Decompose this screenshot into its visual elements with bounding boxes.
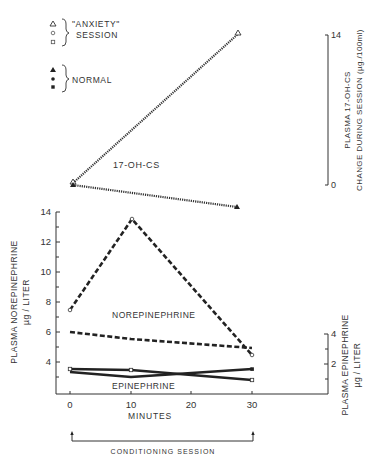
epi-tick-2: 2 bbox=[331, 358, 336, 369]
ohcs-panel: 17-OH-CS 14 0 PLASMA 17-OH-CS CHANGE DUR… bbox=[70, 29, 364, 209]
ne-axis-label-line1: PLASMA NOREPINEPHRINE bbox=[9, 240, 19, 363]
ohcs-axis-label-line2: CHANGE DURING SESSION (µg./100ml) bbox=[355, 29, 364, 191]
open-circle-marker-icon bbox=[68, 308, 72, 312]
filled-circle-marker-icon bbox=[51, 77, 55, 81]
legend-session-label: SESSION bbox=[76, 30, 118, 40]
open-circle-marker-icon bbox=[51, 31, 55, 35]
ne-tick-8: 8 bbox=[46, 296, 51, 307]
epinephrine-series: EPINEPHRINE bbox=[68, 367, 254, 391]
open-circle-marker-icon bbox=[250, 353, 254, 357]
norepinephrine-series: NOREPINEPHRINE bbox=[68, 217, 254, 357]
open-square-marker-icon bbox=[68, 367, 71, 370]
epi-tick-4: 4 bbox=[331, 328, 336, 339]
brace-icon bbox=[62, 19, 69, 46]
x-tick-30: 30 bbox=[247, 399, 258, 410]
ohcs-tick-14: 14 bbox=[331, 30, 341, 40]
ne-tick-12: 12 bbox=[40, 236, 51, 247]
arrow-up-icon bbox=[70, 431, 73, 435]
norepinephrine-label: NOREPINEPHRINE bbox=[112, 310, 196, 320]
ne-tick-14: 14 bbox=[40, 206, 51, 217]
open-square-marker-icon bbox=[51, 40, 54, 43]
x-axis-label: MINUTES bbox=[128, 411, 172, 421]
ne-normal-line bbox=[70, 332, 252, 348]
legend-anxiety-label: "ANXIETY" bbox=[72, 19, 120, 29]
filled-square-marker-icon bbox=[250, 367, 254, 371]
x-tick-0: 0 bbox=[67, 399, 72, 410]
x-tick-10: 10 bbox=[126, 399, 137, 410]
open-circle-marker-icon bbox=[130, 217, 134, 221]
filled-triangle-marker-icon bbox=[50, 67, 56, 72]
epi-axis-label-line2: µg / LITER bbox=[352, 343, 362, 388]
open-square-marker-icon bbox=[129, 368, 132, 371]
filled-square-marker-icon bbox=[51, 85, 54, 88]
legend-normal-label: NORMAL bbox=[72, 75, 112, 85]
legend: "ANXIETY" SESSION NORMAL bbox=[50, 19, 120, 92]
brace-icon bbox=[62, 65, 69, 92]
ne-tick-4: 4 bbox=[46, 356, 51, 367]
ne-axis-label-line2: µg / LITER bbox=[21, 279, 31, 325]
conditioning-session-label: CONDITIONING SESSION bbox=[111, 448, 216, 455]
arrow-up-icon bbox=[251, 431, 254, 435]
ohcs-axis-label-line1: PLASMA 17-OH-CS bbox=[343, 71, 352, 149]
ohcs-label: 17-OH-CS bbox=[113, 160, 160, 170]
open-triangle-marker-icon bbox=[235, 30, 241, 35]
open-square-marker-icon bbox=[250, 378, 253, 381]
ohcs-tick-0: 0 bbox=[331, 180, 336, 190]
ne-tick-6: 6 bbox=[46, 326, 51, 337]
x-tick-20: 20 bbox=[186, 399, 197, 410]
epinephrine-label: EPINEPHRINE bbox=[112, 381, 175, 391]
epi-axis-label-line1: PLASMA EPINEPHRINE bbox=[340, 314, 350, 415]
open-triangle-marker-icon bbox=[50, 21, 56, 26]
conditioning-session-bracket: CONDITIONING SESSION bbox=[70, 431, 254, 455]
ohcs-normal-line bbox=[73, 185, 237, 207]
chart-figure: "ANXIETY" SESSION NORMAL 17-OH-CS 14 0 P… bbox=[0, 0, 380, 466]
ne-tick-10: 10 bbox=[40, 266, 51, 277]
